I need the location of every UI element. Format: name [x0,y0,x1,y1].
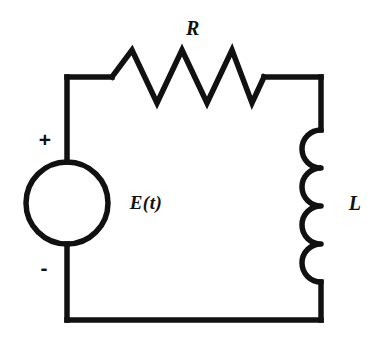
voltage-source-circle-icon [26,162,108,244]
inductor-label: L [349,192,362,215]
circuit-schematic-canvas [0,0,376,354]
positive-terminal-label: + [39,128,51,152]
inductor-coil-icon [302,130,321,282]
rl-circuit-diagram: R E(t) L + - [0,0,376,354]
resistor-zigzag-icon [112,50,264,103]
resistor-label: R [186,17,200,40]
negative-terminal-label: - [41,256,48,280]
voltage-source-label: E(t) [130,192,163,214]
